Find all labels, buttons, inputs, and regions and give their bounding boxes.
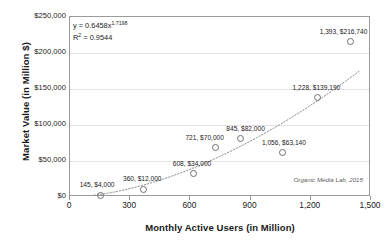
data-point-label: 721, $70,000 [185, 134, 224, 141]
x-axis-tick: 300 [99, 200, 159, 210]
data-point-label: 1,393, $216,740 [320, 28, 368, 35]
equation-line: y = 0.6458x1.7198 [73, 19, 127, 31]
y-axis-tick: $50,000 [6, 155, 66, 164]
equation-exponent: 1.7198 [111, 20, 127, 26]
data-point-label: 360, $12,000 [123, 175, 162, 182]
x-axis-title: Monthly Active Users (in Million) [60, 222, 380, 233]
data-point-label: 608, $34,000 [173, 160, 212, 167]
data-point [190, 170, 197, 177]
data-point-label: 1,228, $139,190 [293, 84, 341, 91]
y-axis-tick: $150,000 [6, 83, 66, 92]
trendline-equation: y = 0.6458x1.7198 R2 = 0.9544 [73, 19, 127, 43]
x-axis-tick: 0 [39, 200, 99, 210]
attribution-text: Organic Media Lab, 2015 [294, 176, 363, 183]
data-point-label: 1,056, $63,140 [262, 139, 306, 146]
trendline [70, 17, 371, 197]
y-axis-tick: $100,000 [6, 119, 66, 128]
r-squared-line: R2 = 0.9544 [73, 31, 127, 43]
x-axis-tick: 1,500 [340, 200, 390, 210]
data-point [140, 186, 147, 193]
y-axis-tick: $0 [6, 191, 66, 200]
y-axis-tick: $200,000 [6, 47, 66, 56]
data-point-label: 145, $4,000 [80, 181, 115, 188]
x-axis-tick: 900 [220, 200, 280, 210]
r-squared-value: = 0.9544 [81, 34, 112, 43]
equation-text: y = 0.6458x [73, 21, 111, 30]
data-point [97, 192, 104, 199]
x-axis-tick: 600 [159, 200, 219, 210]
plot-area: 145, $4,000360, $12,000608, $34,000721, … [69, 16, 370, 196]
scatter-chart: Market Value (in Million $) Monthly Acti… [0, 0, 390, 244]
x-axis-tick: 1,200 [280, 200, 340, 210]
data-point-label: 845, $82,000 [226, 125, 265, 132]
y-axis-tick: $250,000 [6, 11, 66, 20]
